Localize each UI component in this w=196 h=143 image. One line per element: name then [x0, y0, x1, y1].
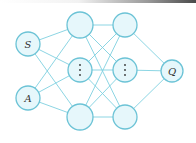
hidden-node — [67, 12, 93, 38]
input-label-a: A — [23, 93, 31, 104]
input-label-s: S — [25, 39, 32, 50]
input-node-s: S — [16, 32, 40, 56]
hidden-layer-1 — [67, 12, 93, 130]
neural-network-diagram: S A Q — [0, 0, 196, 143]
output-node-q: Q — [161, 60, 183, 82]
hidden-node — [67, 104, 93, 130]
hidden-layer-2 — [113, 13, 137, 129]
edges — [28, 25, 172, 117]
input-node-a: A — [16, 86, 40, 110]
hidden-node — [113, 13, 137, 37]
output-label-q: Q — [168, 66, 176, 77]
hidden-node — [113, 105, 137, 129]
